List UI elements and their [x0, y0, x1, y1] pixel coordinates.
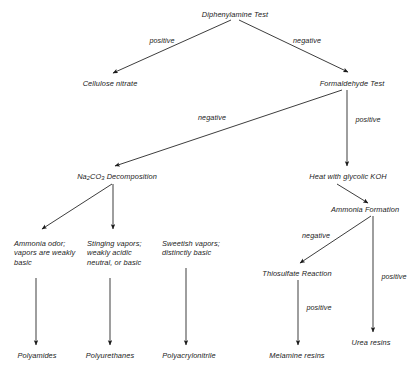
- node-urea-resins: Urea resins: [352, 338, 391, 347]
- edge-koh-to-ammonia: [337, 184, 368, 203]
- edge-label-diphenylamine-negative: negative: [293, 36, 321, 45]
- node-polyacrylonitrile: Polyacrylonitrile: [162, 351, 215, 360]
- edge-diphenylamine-negative: [239, 20, 348, 72]
- node-na2co3-decomposition: Na2CO3 Decomposition: [77, 172, 157, 184]
- edge-label-formaldehyde-positive: positive: [355, 115, 380, 124]
- edge-label-ammonia-negative: negative: [302, 231, 330, 240]
- na2co3-suffix: Decomposition: [105, 172, 157, 181]
- node-diphenylamine-test: Diphenylamine Test: [202, 10, 268, 19]
- node-melamine-resins: Melamine resins: [269, 351, 324, 360]
- flowchart-diagram: Diphenylamine Test Cellulose nitrate For…: [0, 0, 414, 373]
- node-thiosulfate-reaction: Thiosulfate Reaction: [262, 269, 331, 278]
- edge-formaldehyde-negative: [115, 90, 342, 166]
- edge-label-thiosulfate-positive: positive: [306, 303, 331, 312]
- node-stinging-vapors-description: Stinging vapors; weakly acidic neutral, …: [87, 239, 142, 267]
- edge-na2co3-to-ammonia-odor: [42, 184, 112, 229]
- node-sweetish-vapors-description: Sweetish vapors; distinctly basic: [162, 239, 220, 258]
- node-ammonia-formation: Ammonia Formation: [331, 205, 399, 214]
- na2co3-prefix: Na: [77, 172, 87, 181]
- edge-label-formaldehyde-negative: negative: [198, 113, 226, 122]
- na2co3-mid: CO: [90, 172, 101, 181]
- edge-layer: [0, 0, 414, 373]
- node-heat-with-glycolic-koh: Heat with glycolic KOH: [309, 172, 386, 181]
- node-formaldehyde-test: Formaldehyde Test: [320, 79, 385, 88]
- node-polyurethanes: Polyurethanes: [86, 351, 135, 360]
- node-polyamides: Polyamides: [17, 351, 56, 360]
- edge-diphenylamine-positive: [113, 20, 231, 73]
- node-cellulose-nitrate: Cellulose nitrate: [83, 79, 138, 88]
- node-ammonia-odor-description: Ammonia odor; vapors are weakly basic: [14, 239, 75, 267]
- edge-label-ammonia-positive: positive: [381, 272, 406, 281]
- edge-label-diphenylamine-positive: positive: [149, 36, 174, 45]
